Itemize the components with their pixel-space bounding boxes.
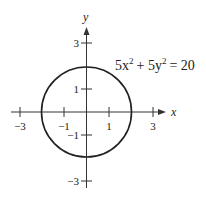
equation-annotation: 5x2+ 5y2= 20 — [115, 56, 195, 73]
y-axis-label: y — [82, 10, 89, 24]
y-tick-label: −1 — [67, 129, 79, 141]
svg-text:5x2+ 5y2= 20: 5x2+ 5y2= 20 — [115, 56, 195, 73]
x-axis-arrow-icon — [158, 109, 166, 115]
x-tick-label: 3 — [150, 120, 156, 132]
x-axis-label: x — [170, 105, 177, 119]
y-axis-arrow-icon — [84, 27, 90, 35]
y-tick-label: −3 — [67, 175, 79, 187]
circle-graph: x y −3 −1 1 3 3 1 −1 −3 5x2+ 5y2= 20 — [0, 0, 206, 198]
x-tick-label: −3 — [14, 120, 26, 132]
y-tick-label: 1 — [74, 83, 80, 95]
y-tick-label: 3 — [74, 37, 80, 49]
x-tick-label: 1 — [106, 120, 112, 132]
